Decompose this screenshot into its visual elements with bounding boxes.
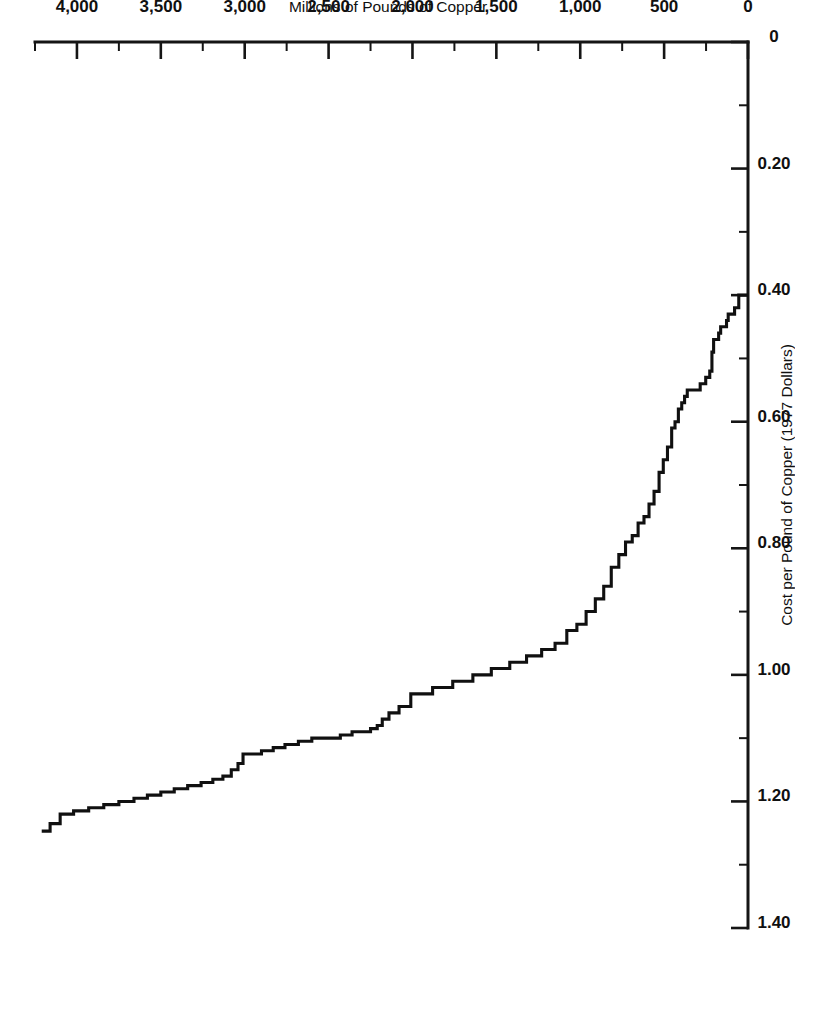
x-axis-title: Millions of Pounds of Copper <box>289 0 487 15</box>
x-tick-label: 3,500 <box>140 0 183 16</box>
y-axis-title: Cost per Pound of Copper (1977 Dollars) <box>778 344 795 626</box>
x-axis-ticks <box>35 42 748 59</box>
x-tick-label: 4,000 <box>56 0 99 16</box>
x-tick-label: 1,000 <box>559 0 602 16</box>
cost-curve <box>42 295 748 831</box>
chart-plot: 00.200.400.600.801.001.201.40 05001,0001… <box>0 0 818 1028</box>
y-tick-label: 1.20 <box>757 786 790 805</box>
y-tick-label: 1.00 <box>757 660 790 679</box>
rotated-figure: 00.200.400.600.801.001.201.40 05001,0001… <box>0 0 818 1028</box>
y-axis-ticks <box>731 42 748 928</box>
y-tick-label: 0.20 <box>757 154 790 173</box>
x-tick-label: 3,000 <box>223 0 266 16</box>
y-tick-label: 0 <box>769 27 778 46</box>
x-tick-label: 0 <box>743 0 752 16</box>
supply-cost-curve-chart: 00.200.400.600.801.001.201.40 05001,0001… <box>0 0 818 1028</box>
y-tick-label: 0.40 <box>757 280 790 299</box>
y-tick-label: 1.40 <box>757 913 790 932</box>
x-tick-label: 500 <box>650 0 678 16</box>
